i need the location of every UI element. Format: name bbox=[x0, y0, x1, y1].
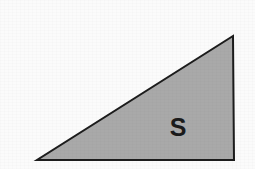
geometry-figure-svg bbox=[0, 0, 255, 169]
figure-canvas: S bbox=[0, 0, 255, 169]
right-triangle-shape bbox=[37, 36, 234, 160]
triangle-area-label-s: S bbox=[170, 115, 187, 140]
